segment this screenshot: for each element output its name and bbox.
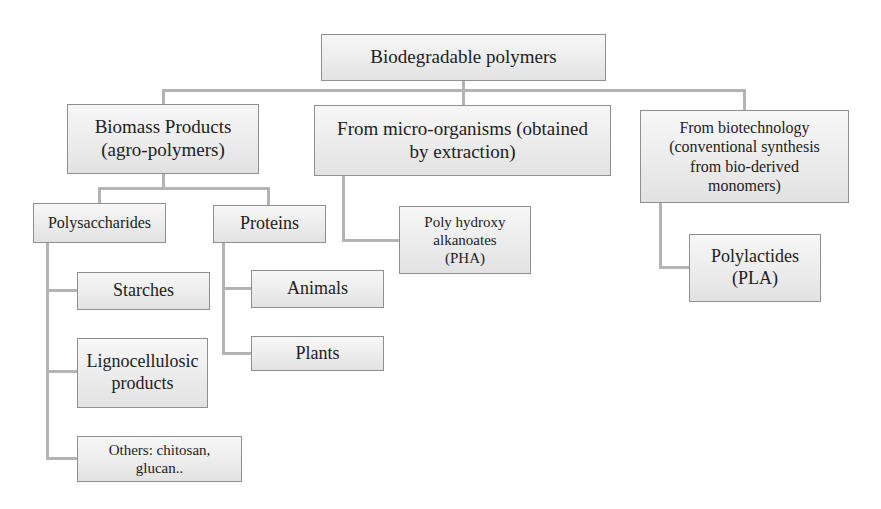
node-starches: Starches: [77, 272, 210, 310]
connector-to-microorganisms: [462, 89, 465, 106]
node-pla: Polylactides (PLA): [689, 234, 821, 302]
node-biomass-products: Biomass Products (agro-polymers): [67, 104, 259, 174]
node-plants: Plants: [251, 336, 384, 371]
connector-to-pha: [342, 239, 400, 242]
node-pha: Poly hydroxy alkanoates (PHA): [399, 206, 531, 274]
connector-biomass-bus: [98, 187, 270, 190]
node-lignocellulosic-products: Lignocellulosic products: [77, 338, 208, 408]
connector-to-animals: [222, 287, 252, 290]
node-label: Polylactides (PLA): [711, 246, 799, 289]
connector-to-lignocellulosic: [46, 370, 78, 373]
node-label: Polysaccharides: [48, 213, 151, 232]
connector-to-others: [46, 457, 78, 460]
node-biodegradable-polymers: Biodegradable polymers: [321, 34, 606, 81]
connector-to-pla: [659, 266, 689, 269]
node-from-biotechnology: From biotechnology (conventional synthes…: [640, 110, 849, 203]
connector-to-plants: [222, 352, 252, 355]
connector-to-biotechnology: [743, 89, 746, 112]
connector-to-biomass: [162, 89, 165, 105]
connector-to-proteins: [267, 187, 270, 205]
node-label: Poly hydroxy alkanoates (PHA): [424, 213, 505, 267]
node-label: Proteins: [240, 213, 299, 235]
node-label: Biodegradable polymers: [370, 46, 556, 69]
node-label: Biomass Products (agro-polymers): [95, 116, 232, 162]
connector-to-polysaccharides: [98, 187, 101, 204]
node-from-microorganisms: From micro-organisms (obtained by extrac…: [314, 105, 611, 176]
connector-biotechnology-down: [659, 202, 662, 268]
node-label: Plants: [295, 343, 339, 365]
node-animals: Animals: [251, 270, 384, 308]
node-label: Starches: [113, 280, 174, 302]
node-label: From biotechnology (conventional synthes…: [669, 118, 820, 195]
connector-to-starches: [46, 289, 78, 292]
node-label: Lignocellulosic products: [87, 351, 199, 394]
connector-top-bus: [162, 89, 746, 92]
node-proteins: Proteins: [213, 205, 326, 243]
connector-microorganisms-down: [342, 176, 345, 241]
connector-polysaccharides-trunk: [46, 242, 49, 459]
node-label: Animals: [287, 278, 348, 300]
node-others-chitosan-glucan: Others: chitosan, glucan..: [77, 436, 242, 482]
connector-proteins-trunk: [222, 242, 225, 354]
node-label: From micro-organisms (obtained by extrac…: [337, 118, 588, 164]
node-label: Others: chitosan, glucan..: [109, 441, 211, 477]
node-polysaccharides: Polysaccharides: [33, 203, 166, 243]
